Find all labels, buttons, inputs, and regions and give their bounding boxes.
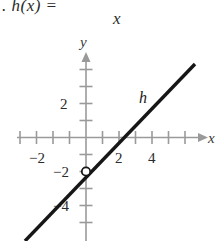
y-axis-label: y — [78, 34, 87, 50]
y-axis-arrow-icon — [82, 52, 91, 62]
x-tick-label-4: 4 — [148, 150, 156, 166]
x-axis-label: x — [207, 130, 215, 146]
figure-container: . h(x) = x — [0, 0, 219, 241]
x-tick-label-2: 2 — [115, 150, 123, 166]
open-circle-hole-marker — [82, 167, 90, 175]
y-tick-label-2: 2 — [60, 96, 68, 112]
x-axis-arrow-icon — [198, 133, 208, 142]
curve-label-h: h — [139, 89, 147, 106]
y-tick-label-neg2: −2 — [53, 164, 69, 180]
coordinate-plane: y x −2 2 4 2 −2 −4 h — [0, 0, 219, 241]
x-tick-label-neg2: −2 — [29, 150, 45, 166]
function-line-h — [25, 64, 195, 241]
